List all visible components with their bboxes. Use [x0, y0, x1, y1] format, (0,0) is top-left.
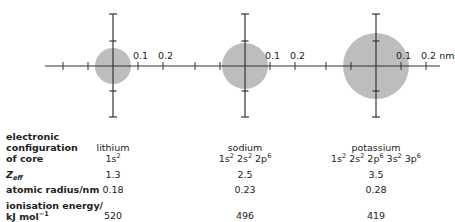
potassium-name-label: potassium [351, 142, 400, 153]
lithium-ionisation-energy-value: 520 [104, 210, 122, 221]
potassium-core-config: 1s2 2s2 2p6 3s2 3p6 [331, 153, 421, 164]
potassium-tick-label: 0.1 [396, 50, 411, 61]
potassium-atomic-radius-value: 0.28 [365, 184, 386, 195]
sodium-ionisation-energy-value: 496 [236, 210, 254, 221]
row-label-atomic-radius: atomic radius/nm [6, 184, 99, 195]
lithium-zeff-value: 1.3 [105, 169, 120, 180]
lithium-name-label: lithium [97, 142, 130, 153]
lithium-tick-label: 0.1 [133, 50, 148, 61]
sodium-zeff-value: 2.5 [237, 169, 252, 180]
sodium-tick-label: 0.1 [265, 50, 280, 61]
lithium-core-config: 1s2 [105, 153, 120, 164]
sodium-tick-label: 0.2 [290, 50, 305, 61]
row-label-config: electronic configuration of core [6, 131, 78, 164]
potassium-ionisation-energy-value: 419 [367, 210, 385, 221]
row-label-zeff: Zeff [6, 169, 23, 180]
row-label-ionisation-energy: ionisation energy/ kJ mol−1 [6, 200, 103, 222]
potassium-tick-label: 0.2 nm [421, 50, 454, 61]
sodium-core-config: 1s2 2s2 2p6 [219, 153, 272, 164]
potassium-zeff-value: 3.5 [368, 169, 383, 180]
sodium-atomic-radius-value: 0.23 [234, 184, 255, 195]
lithium-atomic-radius-value: 0.18 [102, 184, 123, 195]
lithium-tick-label: 0.2 [158, 50, 173, 61]
